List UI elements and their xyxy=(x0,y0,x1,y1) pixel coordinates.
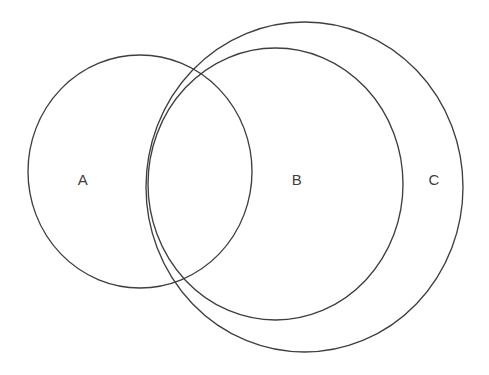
venn-diagram-canvas: A B C xyxy=(0,0,489,375)
venn-diagram-svg: A B C xyxy=(0,0,489,375)
diagram-background xyxy=(0,0,489,375)
set-label-c: C xyxy=(428,171,439,188)
set-label-a: A xyxy=(78,171,88,188)
set-label-b: B xyxy=(292,171,302,188)
